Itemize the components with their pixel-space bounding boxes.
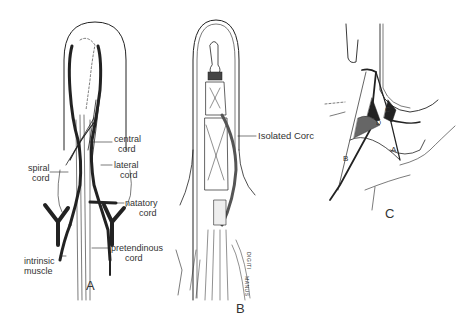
panel-c-drawing — [325, 24, 455, 210]
label-line: lateral — [114, 160, 139, 170]
label-line: natatory — [125, 198, 158, 208]
label-isolated-cord: Isolated Corc — [258, 131, 314, 141]
label-central-cord: central cord — [114, 134, 141, 154]
label-c-a: A — [391, 145, 396, 155]
label-line: pretendinous — [111, 243, 163, 253]
label-vertical-digiti: DIGITI — [246, 252, 252, 270]
label-c-d: D — [376, 118, 381, 128]
label-intrinsic-muscle: intrinsic muscle — [24, 256, 55, 276]
label-spiral-cord: spiral cord — [28, 163, 50, 183]
label-pretendinous-cord: pretendinous cord — [111, 243, 163, 263]
label-vertical-manus: MANUS — [244, 276, 250, 297]
label-line: cord — [114, 170, 139, 180]
label-c-c: C — [385, 105, 390, 115]
label-line: central — [114, 134, 141, 144]
label-line: muscle — [24, 266, 55, 276]
panel-letter-a: A — [86, 278, 95, 293]
anatomical-illustration — [0, 0, 474, 315]
label-natatory-cord: natatory cord — [125, 198, 158, 218]
label-line: cord — [111, 253, 163, 263]
panel-b-drawing — [176, 20, 256, 300]
label-line: spiral — [28, 163, 50, 173]
panel-letter-c: C — [385, 206, 394, 221]
label-line: cord — [125, 208, 158, 218]
label-line: cord — [28, 173, 50, 183]
panel-letter-b: B — [236, 301, 245, 315]
label-c-b: B — [343, 154, 348, 164]
label-lateral-cord: lateral cord — [114, 160, 139, 180]
label-line: intrinsic — [24, 256, 55, 266]
label-line: cord — [114, 144, 141, 154]
